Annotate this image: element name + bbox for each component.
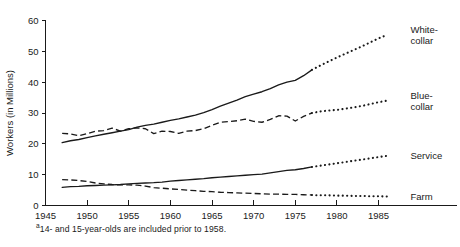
occupation-workers-line-chart: 0102030405060 19451950195519601965197019…: [0, 0, 460, 247]
y-axis-title: Workers (in Millions): [4, 70, 15, 156]
x-tick-label: 1945: [35, 210, 56, 221]
series-projection-farm: [312, 195, 387, 197]
series-projection-service: [312, 156, 387, 167]
series-projection-white-collar: [312, 35, 387, 70]
x-tick-label: 1980: [326, 210, 347, 221]
series-label-farm: Farm: [411, 191, 433, 202]
x-tick-label: 1950: [77, 210, 98, 221]
y-tick-label: 60: [28, 15, 39, 26]
series-label-blue-collar: Blue-: [411, 90, 433, 101]
x-tick-label: 1960: [160, 210, 181, 221]
y-tick-label: 30: [28, 107, 39, 118]
footnote-text: 14- and 15-year-olds are included prior …: [40, 224, 226, 234]
y-tick-label: 10: [28, 169, 39, 180]
y-axis: 0102030405060: [28, 15, 46, 211]
chart-footnote: a14- and 15-year-olds are included prior…: [36, 224, 226, 234]
x-tick-label: 1965: [201, 210, 222, 221]
series-line-farm: [62, 180, 312, 195]
chart-figure: 0102030405060 19451950195519601965197019…: [0, 0, 460, 247]
series-label-white-collar: White-: [411, 24, 438, 35]
x-tick-label: 1985: [368, 210, 389, 221]
series-projection-blue-collar: [312, 101, 387, 113]
y-tick-label: 40: [28, 77, 39, 88]
y-axis-title-text: Workers (in Millions): [4, 70, 15, 156]
series-label-white-collar-line2: collar: [411, 35, 434, 46]
series-labels: White-collarBlue-collarServiceFarm: [411, 24, 443, 202]
series-label-service: Service: [411, 150, 443, 161]
x-tick-label: 1970: [243, 210, 264, 221]
series-line-service: [62, 167, 312, 187]
x-tick-label: 1975: [285, 210, 306, 221]
series-label-blue-collar-line2: collar: [411, 101, 434, 112]
x-tick-label: 1955: [118, 210, 139, 221]
y-tick-label: 20: [28, 138, 39, 149]
series-lines: [62, 35, 387, 197]
x-axis: 194519501955196019651970197519801985: [35, 200, 457, 221]
y-tick-label: 50: [28, 46, 39, 57]
